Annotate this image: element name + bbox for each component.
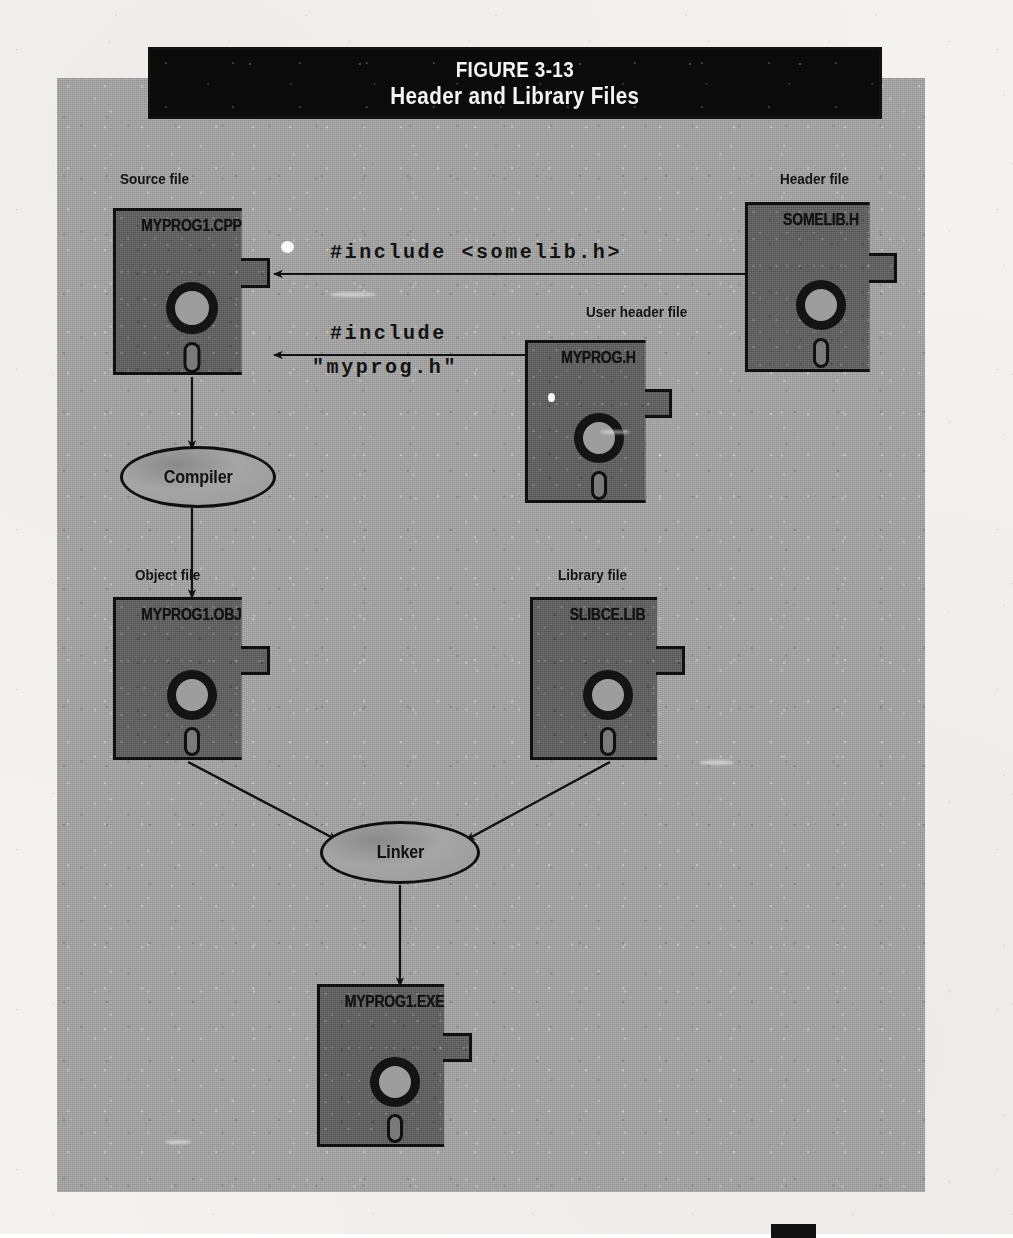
floppy-hub-icon bbox=[370, 1057, 420, 1107]
figure-subtitle: Header and Library Files bbox=[390, 83, 639, 108]
floppy-hub-icon bbox=[574, 413, 624, 463]
floppy-label: MYPROG1.OBJ bbox=[122, 606, 260, 624]
floppy-hub-icon bbox=[796, 280, 846, 330]
floppy-disk-executable[interactable]: MYPROG1.EXE bbox=[317, 984, 472, 1147]
floppy-shutter-icon bbox=[600, 727, 616, 756]
code-include-myprog-line1: #include bbox=[330, 322, 447, 345]
floppy-shutter-icon bbox=[183, 342, 200, 373]
floppy-label: SLIBCE.LIB bbox=[539, 606, 675, 624]
floppy-disk-library[interactable]: SLIBCE.LIB bbox=[530, 597, 685, 760]
process-label: Linker bbox=[376, 842, 424, 863]
floppy-notch-edge bbox=[656, 672, 685, 675]
floppy-shutter-icon bbox=[387, 1114, 403, 1143]
floppy-label: MYPROG1.EXE bbox=[326, 993, 462, 1011]
floppy-notch-edge bbox=[645, 415, 672, 418]
floppy-notch-edge bbox=[443, 1059, 472, 1062]
process-linker[interactable]: Linker bbox=[320, 821, 480, 884]
floppy-notch-edge bbox=[443, 1033, 472, 1036]
floppy-notch-edge bbox=[656, 646, 685, 649]
floppy-disk-user-header[interactable]: MYPROG.H bbox=[525, 340, 672, 503]
floppy-shutter-icon bbox=[591, 471, 607, 500]
floppy-notch-edge bbox=[869, 253, 897, 256]
caption-header-file: Header file bbox=[780, 170, 849, 187]
floppy-disk-object[interactable]: MYPROG1.OBJ bbox=[113, 597, 270, 760]
floppy-notch-edge bbox=[682, 646, 685, 675]
floppy-notch-edge bbox=[267, 646, 270, 675]
floppy-notch-edge bbox=[241, 258, 270, 261]
floppy-notch-edge bbox=[645, 389, 672, 392]
floppy-notch-edge bbox=[669, 389, 672, 418]
floppy-notch-edge bbox=[469, 1033, 472, 1062]
floppy-disk-system-header[interactable]: SOMELIB.H bbox=[745, 202, 897, 372]
floppy-label: SOMELIB.H bbox=[754, 211, 888, 229]
floppy-notch-edge bbox=[894, 253, 897, 283]
floppy-notch-edge bbox=[267, 258, 270, 288]
floppy-hub-icon bbox=[166, 282, 218, 334]
floppy-notch-edge bbox=[241, 285, 270, 288]
page-marker-tab bbox=[771, 1224, 816, 1238]
code-include-myprog-line2: "myprog.h" bbox=[312, 356, 458, 379]
code-include-somelib: #include <somelib.h> bbox=[330, 241, 622, 264]
floppy-label: MYPROG1.CPP bbox=[122, 217, 260, 235]
caption-object-file: Object file bbox=[135, 566, 200, 583]
floppy-notch-edge bbox=[241, 646, 270, 649]
floppy-notch-edge bbox=[869, 280, 897, 283]
floppy-disk-source[interactable]: MYPROG1.CPP bbox=[113, 208, 270, 375]
floppy-hub-icon bbox=[167, 670, 217, 720]
floppy-hub-icon bbox=[583, 670, 633, 720]
floppy-shutter-icon bbox=[813, 338, 829, 368]
process-compiler[interactable]: Compiler bbox=[120, 446, 276, 508]
process-label: Compiler bbox=[164, 467, 233, 488]
figure-number: FIGURE 3-13 bbox=[456, 58, 574, 81]
figure-title-banner: FIGURE 3-13 Header and Library Files bbox=[151, 50, 879, 116]
floppy-notch-edge bbox=[241, 672, 270, 675]
caption-source-file: Source file bbox=[120, 170, 189, 187]
caption-user-header-file: User header file bbox=[586, 303, 687, 320]
floppy-label: MYPROG.H bbox=[534, 349, 663, 367]
floppy-shutter-icon bbox=[184, 727, 200, 756]
caption-library-file: Library file bbox=[558, 566, 627, 583]
